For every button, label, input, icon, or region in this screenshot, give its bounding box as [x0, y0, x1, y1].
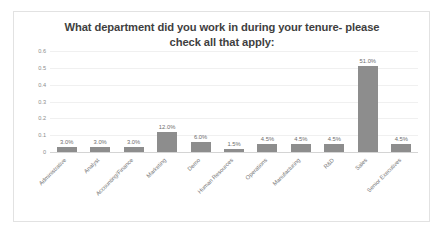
chart-title: What department did you work in during y… — [48, 20, 396, 50]
bar-value-label: 4.5% — [261, 136, 274, 142]
y-axis-tick-label: 0.6 — [20, 48, 46, 54]
bar — [257, 144, 277, 152]
bar-value-label: 3.0% — [60, 139, 73, 145]
bar — [291, 144, 311, 152]
bar-group: 51.0% — [351, 51, 384, 152]
bar-group: 3.0% — [83, 51, 116, 152]
bar-group: 6.0% — [184, 51, 217, 152]
bar-value-label: 3.0% — [127, 139, 140, 145]
bar-value-label: 6.0% — [194, 134, 207, 140]
x-axis-label-slot: Manufacturing — [284, 155, 317, 221]
x-axis-category-label: Sales — [354, 157, 368, 171]
x-axis-category-label: Demo — [186, 157, 201, 172]
bar-value-label: 4.5% — [294, 136, 307, 142]
y-axis-tick-label: 0 — [20, 149, 46, 155]
x-axis-category-label: R&D — [322, 157, 335, 170]
bar-group: 4.5% — [318, 51, 351, 152]
bar — [157, 132, 177, 152]
x-axis-label-slot: Accounting/Finance — [117, 155, 150, 221]
bar-value-label: 51.0% — [360, 58, 376, 64]
y-axis-tick-label: 0.2 — [20, 115, 46, 121]
x-axis-category-label: Analyst — [83, 157, 100, 174]
bar-value-label: 4.5% — [328, 136, 341, 142]
bar — [191, 142, 211, 152]
bar-value-label: 4.5% — [395, 136, 408, 142]
bar-group: 4.5% — [251, 51, 284, 152]
bar — [358, 66, 378, 152]
chart-title-line-1: What department did you work in during y… — [65, 21, 343, 33]
x-axis-label-slot: Operations — [251, 155, 284, 221]
bar-group: 12.0% — [150, 51, 183, 152]
bar-value-label: 1.5% — [227, 141, 240, 147]
bar-value-label: 12.0% — [159, 124, 175, 130]
bar — [324, 144, 344, 152]
y-axis-tick-label: 0.3 — [20, 99, 46, 105]
bar-group: 3.0% — [50, 51, 83, 152]
x-axis-labels: AdministrativeAnalystAccounting/FinanceM… — [50, 155, 418, 221]
y-axis-tick-label: 0.1 — [20, 132, 46, 138]
bar-group: 3.0% — [117, 51, 150, 152]
y-axis: 0.60.50.40.30.20.10 — [18, 51, 46, 152]
bar — [391, 144, 411, 152]
x-axis-label-slot: R&D — [318, 155, 351, 221]
y-axis-tick-label: 0.4 — [20, 82, 46, 88]
bar-group: 4.5% — [385, 51, 418, 152]
x-axis-label-slot: Administrative — [50, 155, 83, 221]
y-axis-tick-label: 0.5 — [20, 65, 46, 71]
x-axis-label-slot: Senior Executives — [385, 155, 418, 221]
bar-group: 1.5% — [217, 51, 250, 152]
x-axis-category-label: Administrative — [38, 157, 67, 186]
bar-value-label: 3.0% — [94, 139, 107, 145]
x-axis-label-slot: Human Resources — [217, 155, 250, 221]
bar-group: 4.5% — [284, 51, 317, 152]
chart-container: What department did you work in during y… — [13, 11, 430, 222]
x-axis-line — [50, 152, 418, 153]
x-axis-label-slot: Marketing — [150, 155, 183, 221]
plot-area: 3.0%3.0%3.0%12.0%6.0%1.5%4.5%4.5%4.5%51.… — [50, 51, 418, 152]
